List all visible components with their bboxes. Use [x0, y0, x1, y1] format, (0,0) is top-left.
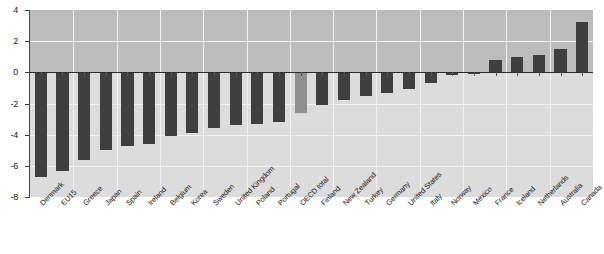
bar-belgium[interactable] — [165, 72, 177, 136]
gridline-horizontal — [30, 135, 593, 136]
y-tick-label: 4 — [13, 6, 18, 15]
x-tick-mark — [236, 72, 237, 76]
x-tick-mark — [127, 72, 128, 76]
x-tick-mark — [344, 72, 345, 76]
y-axis: 420-2-4-6-8 — [0, 0, 30, 254]
bar-portugal[interactable] — [273, 72, 285, 122]
y-tick-label: -2 — [10, 99, 18, 108]
gridline-horizontal — [30, 166, 593, 167]
x-tick-mark — [171, 72, 172, 76]
x-tick-mark — [62, 72, 63, 76]
bar-netherlands[interactable] — [533, 55, 545, 72]
bar-oecd-total[interactable] — [295, 72, 307, 113]
x-tick-mark — [366, 72, 367, 76]
bar-eu15[interactable] — [56, 72, 68, 170]
x-tick-mark — [431, 72, 432, 76]
y-tick-label: 0 — [13, 68, 18, 77]
y-tick-label: -8 — [10, 193, 18, 202]
x-tick-mark — [561, 72, 562, 76]
x-tick-mark — [279, 72, 280, 76]
bar-korea[interactable] — [186, 72, 198, 133]
x-tick-mark — [84, 72, 85, 76]
x-tick-mark — [452, 72, 453, 76]
bar-canada[interactable] — [576, 22, 588, 72]
x-tick-mark — [517, 72, 518, 76]
y-tick-mark — [25, 197, 30, 198]
x-tick-mark — [387, 72, 388, 76]
bar-greece[interactable] — [78, 72, 90, 159]
gridline-horizontal — [30, 104, 593, 105]
x-tick-mark — [539, 72, 540, 76]
zero-line — [30, 72, 593, 73]
x-tick-mark — [41, 72, 42, 76]
x-tick-mark — [214, 72, 215, 76]
bar-ireland[interactable] — [143, 72, 155, 144]
bar-poland[interactable] — [251, 72, 263, 123]
bar-sweden[interactable] — [208, 72, 220, 128]
bar-france[interactable] — [489, 60, 501, 72]
bar-australia[interactable] — [554, 49, 566, 72]
gridline-horizontal — [30, 41, 593, 42]
x-tick-mark — [301, 72, 302, 76]
x-tick-mark — [496, 72, 497, 76]
x-tick-mark — [149, 72, 150, 76]
y-tick-label: 2 — [13, 37, 18, 46]
x-tick-mark — [106, 72, 107, 76]
bar-iceland[interactable] — [511, 57, 523, 73]
y-tick-label: -4 — [10, 130, 18, 139]
x-tick-mark — [322, 72, 323, 76]
plot-area — [30, 10, 593, 197]
x-tick-mark — [257, 72, 258, 76]
bar-japan[interactable] — [100, 72, 112, 150]
x-tick-mark — [474, 72, 475, 76]
bar-denmark[interactable] — [35, 72, 47, 176]
x-tick-mark — [409, 72, 410, 76]
x-tick-mark — [192, 72, 193, 76]
bar-spain[interactable] — [121, 72, 133, 145]
y-tick-label: -6 — [10, 161, 18, 170]
x-tick-mark — [582, 72, 583, 76]
bar-new-zealand[interactable] — [338, 72, 350, 100]
bar-finland[interactable] — [316, 72, 328, 105]
bar-united-kingdom[interactable] — [230, 72, 242, 125]
